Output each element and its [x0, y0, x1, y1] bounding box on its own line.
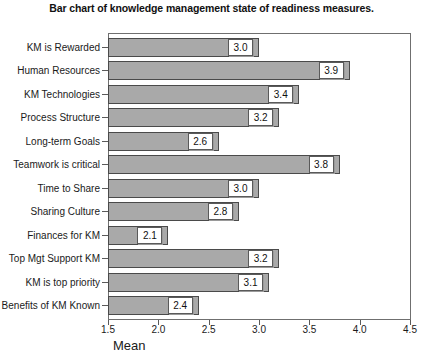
bar-value-label: 3.0: [228, 180, 253, 197]
y-axis-label: KM is top priority: [0, 273, 100, 292]
y-axis-label: Sharing Culture: [0, 202, 100, 221]
bar-value-label: 3.0: [228, 39, 253, 56]
y-axis-label: KM Technologies: [0, 85, 100, 104]
y-axis-label: Benefits of KM Known: [0, 296, 100, 315]
bar-row: 3.0: [108, 38, 410, 57]
bar-row: 3.2: [108, 108, 410, 127]
bar-value-label: 2.1: [137, 227, 162, 244]
x-axis-tick-label: 2.0: [151, 324, 165, 335]
bar-row: 2.1: [108, 226, 410, 245]
bar-value-label: 3.2: [248, 250, 273, 267]
bar-row: 3.4: [108, 85, 410, 104]
bar-row: 3.2: [108, 249, 410, 268]
bar-value-label: 3.9: [319, 62, 344, 79]
x-axis-tick-label: 3.5: [302, 324, 316, 335]
bar-row: 3.1: [108, 273, 410, 292]
chart-title: Bar chart of knowledge management state …: [0, 2, 423, 14]
bar-value-label: 2.4: [168, 297, 193, 314]
x-axis-tick-label: 4.5: [403, 324, 417, 335]
x-axis-tick-label: 4.0: [353, 324, 367, 335]
y-axis-label: Finances for KM: [0, 226, 100, 245]
x-axis-tick-label: 3.0: [252, 324, 266, 335]
bar[interactable]: [108, 61, 350, 80]
bar-value-label: 3.8: [309, 156, 334, 173]
x-axis-tick-labels: 1.52.02.53.03.54.04.5: [108, 324, 411, 338]
bar-row: 2.4: [108, 296, 410, 315]
y-axis-label: KM is Rewarded: [0, 38, 100, 57]
bar[interactable]: [108, 155, 340, 174]
x-axis-tick-label: 2.5: [202, 324, 216, 335]
bar-row: 2.8: [108, 202, 410, 221]
y-axis-label: Top Mgt Support KM: [0, 249, 100, 268]
y-axis-label: Teamwork is critical: [0, 155, 100, 174]
bars-container: 3.03.93.43.22.63.83.02.82.13.23.12.4: [108, 34, 410, 319]
x-axis-tick-label: 1.5: [101, 324, 115, 335]
bar-value-label: 3.4: [268, 86, 293, 103]
bar-value-label: 3.1: [238, 274, 263, 291]
y-axis-category-labels: KM is RewardedHuman ResourcesKM Technolo…: [0, 34, 100, 319]
y-axis-label: Time to Share: [0, 179, 100, 198]
bar-row: 2.6: [108, 132, 410, 151]
bar-row: 3.8: [108, 155, 410, 174]
x-axis-title: Mean: [113, 338, 146, 353]
bar-row: 3.9: [108, 61, 410, 80]
bar-value-label: 3.2: [248, 109, 273, 126]
bar-row: 3.0: [108, 179, 410, 198]
y-axis-label: Long-term Goals: [0, 132, 100, 151]
y-axis-label: Human Resources: [0, 61, 100, 80]
y-axis-label: Process Structure: [0, 108, 100, 127]
bar-value-label: 2.6: [188, 133, 213, 150]
bar-value-label: 2.8: [208, 203, 233, 220]
